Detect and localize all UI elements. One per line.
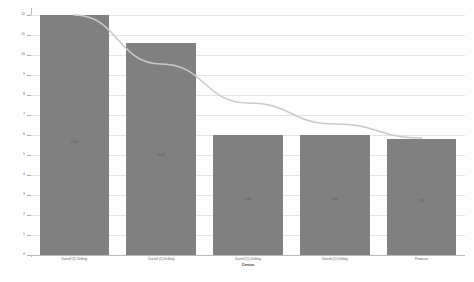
bar[interactable]: 10.60	[126, 43, 195, 255]
y-tick-label: 0	[23, 253, 25, 256]
bar[interactable]: 5.80	[387, 139, 456, 255]
y-tick-label: 4	[23, 173, 25, 176]
y-tick-label: 11	[21, 33, 25, 36]
bar-slot: 6.00	[213, 15, 282, 255]
x-tick-label: Darrell (1) Drilling	[235, 258, 261, 262]
chart-container: 0123456789101112 12.0010.606.006.005.80 …	[0, 0, 474, 282]
bar[interactable]: 6.00	[300, 135, 369, 255]
bar-slot: 6.00	[300, 15, 369, 255]
y-tick-label: 2	[23, 213, 25, 216]
x-tick-label: Darrell (1) Drilling	[322, 258, 348, 262]
bar-value-label: 5.80	[418, 199, 424, 203]
bar-series: 12.0010.606.006.005.80	[31, 15, 465, 255]
bar-value-label: 10.60	[157, 153, 165, 157]
y-tick-label: 12	[21, 13, 25, 16]
bar-slot: 5.80	[387, 15, 456, 255]
y-tick-label: 3	[23, 193, 25, 196]
bar-slot: 10.60	[126, 15, 195, 255]
x-tick-label: Darrell (1) Drilling	[148, 258, 174, 262]
y-tick-label: 5	[23, 153, 25, 156]
y-tick-label: 1	[23, 233, 25, 236]
bar[interactable]: 6.00	[213, 135, 282, 255]
y-tick-label: 10	[21, 53, 25, 56]
y-tick-label: 6	[23, 133, 25, 136]
bar[interactable]: 12.00	[40, 15, 109, 255]
bar-value-label: 12.00	[70, 140, 78, 144]
x-axis-line	[31, 255, 465, 256]
y-tick-label: 9	[23, 73, 25, 76]
bar-value-label: 6.00	[245, 197, 251, 201]
plot-area: 0123456789101112 12.0010.606.006.005.80	[31, 15, 465, 255]
x-tick-label: Producer	[415, 258, 428, 262]
bar-value-label: 6.00	[332, 197, 338, 201]
y-tick-label: 8	[23, 93, 25, 96]
y-tick	[27, 255, 31, 256]
y-tick-label: 7	[23, 113, 25, 116]
bar-slot: 12.00	[40, 15, 109, 255]
x-axis-title: Census	[242, 263, 255, 267]
x-tick-label: Darrell (1) Drilling	[62, 258, 88, 262]
